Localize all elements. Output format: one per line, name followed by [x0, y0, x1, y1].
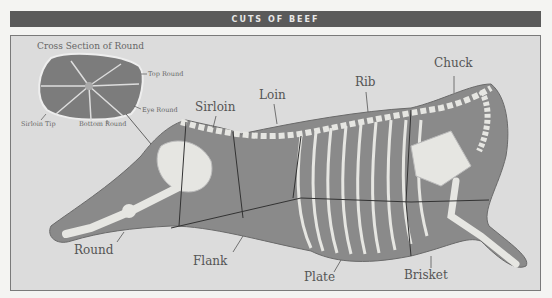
diagram-panel: Cross Section of Round Top Round Eye Rou… [10, 35, 541, 291]
bottom-round-label: Bottom Round [79, 120, 126, 128]
cross-section-title: Cross Section of Round [37, 41, 144, 51]
rib-label: Rib [355, 75, 376, 89]
sirloin-label: Sirloin [195, 100, 235, 114]
chuck-label: Chuck [434, 56, 473, 70]
plate-label: Plate [304, 270, 335, 284]
cross-section-illustration [39, 54, 161, 156]
title-bar: CUTS OF BEEF [10, 11, 541, 27]
round-label: Round [74, 243, 113, 257]
loin-label: Loin [259, 88, 286, 102]
top-round-label: Top Round [148, 70, 183, 78]
brisket-label: Brisket [404, 268, 448, 282]
flank-label: Flank [193, 254, 227, 268]
eye-round-label: Eye Round [142, 106, 178, 114]
diagram-title: CUTS OF BEEF [232, 15, 320, 24]
sirloin-tip-label: Sirloin Tip [21, 120, 56, 128]
